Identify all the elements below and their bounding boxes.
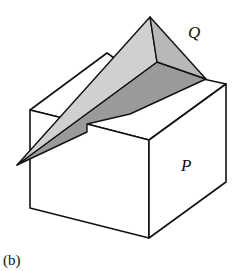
box-label: P bbox=[180, 156, 191, 175]
diagram-figure: Q P (b) bbox=[0, 0, 243, 271]
panel-label: (b) bbox=[3, 252, 21, 269]
wedge-label: Q bbox=[188, 23, 200, 42]
